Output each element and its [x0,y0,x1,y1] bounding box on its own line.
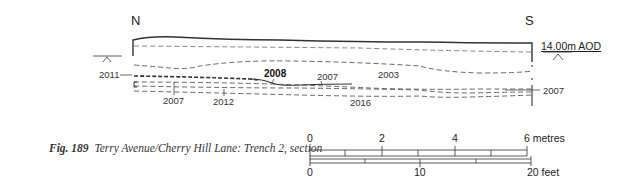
layer-boundary-1 [134,46,532,52]
south-label: S [525,13,534,28]
datum-symbol-left [93,56,122,62]
context-label-2012: 2012 [213,96,234,107]
context-label-2007: 2007 [543,85,564,96]
context-label-2008: 2008 [264,68,286,79]
figure-caption: Fig. 189 Terry Avenue/Cherry Hill Lane: … [49,142,322,154]
scale-feet-end: 20 feet [527,166,559,177]
context-label-2016: 2016 [350,97,371,108]
layer-boundary-2016 [134,91,532,97]
context-label-2007: 2007 [163,95,184,106]
scale-metres-tick-4: 4 [452,132,458,144]
context-label-2003: 2003 [378,69,399,80]
scale-metres-tick-2: 2 [379,132,385,144]
ground-surface-line [133,37,532,62]
scale-metres-end: 6 metres [524,132,565,144]
north-label: N [131,13,140,28]
context-label-2007: 2007 [317,71,338,82]
scale-bar-metres [310,146,527,156]
layer-2011 [134,76,258,80]
context-label-2011: 2011 [99,69,119,80]
datum-label: 14.00m AOD [541,40,601,52]
figure-number: Fig. 189 [49,142,89,154]
leader-2008 [272,79,274,83]
figure-caption-text: Terry Avenue/Cherry Hill Lane: Trench 2,… [94,142,322,154]
scale-feet-tick-10: 10 [414,166,426,177]
datum-symbol-right [543,52,572,60]
layer-boundary-3 [134,82,532,89]
scale-feet-tick-0: 0 [307,166,313,177]
